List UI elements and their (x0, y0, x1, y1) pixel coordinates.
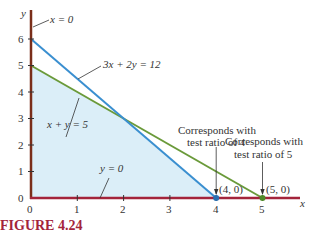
point-4-0 (213, 195, 219, 201)
label-eq-x-y-5: x + y = 5 (46, 118, 89, 130)
note-ratio-5-line2: test ratio of 5 (234, 148, 293, 160)
x-tick-0: 0 (27, 203, 33, 215)
label-point-4-0: (4, 0) (219, 183, 243, 196)
x-tick-2: 2 (120, 203, 126, 215)
label-x-eq-0: x = 0 (49, 13, 74, 25)
note-ratio-5-line1: Corresponds with (225, 135, 303, 147)
y-tick-6: 6 (18, 33, 24, 45)
y-tick-3: 3 (18, 112, 24, 124)
label-point-5-0: (5, 0) (266, 183, 290, 196)
chart: 0 1 2 3 4 5 6 0 1 2 3 4 5 y x x = 0 3x +… (0, 0, 323, 242)
x-tick-5: 5 (259, 203, 265, 215)
x-tick-3: 3 (166, 203, 172, 215)
x-axis-label: x (299, 197, 305, 209)
y-tick-1: 1 (18, 165, 24, 177)
arrow-head-5 (260, 189, 264, 195)
y-axis-label: y (20, 7, 26, 19)
point-5-0 (260, 195, 266, 201)
arrow-head-4 (214, 189, 218, 195)
y-tick-5: 5 (18, 59, 24, 71)
y-tick-2: 2 (18, 139, 24, 151)
label-y-eq-0: y = 0 (99, 162, 124, 174)
label-eq-3x-2y-12: 3x + 2y = 12 (102, 58, 161, 70)
y-tick-0: 0 (18, 192, 24, 204)
x-tick-4: 4 (213, 203, 219, 215)
y-tick-4: 4 (18, 86, 24, 98)
x-tick-1: 1 (74, 203, 80, 215)
figure-caption: FIGURE 4.24 (0, 218, 82, 234)
